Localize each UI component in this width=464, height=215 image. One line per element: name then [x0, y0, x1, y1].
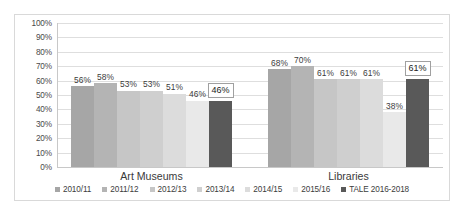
legend-item[interactable]: 2015/16: [293, 185, 330, 194]
y-axis-tick: 10%: [36, 148, 52, 157]
bar-value-label: 61%: [363, 69, 380, 77]
bar-slot: 68%: [268, 23, 291, 167]
y-axis-tick: 0%: [40, 163, 52, 172]
bar[interactable]: [186, 101, 209, 167]
legend-swatch-icon: [102, 187, 107, 192]
category-label: Libraries: [328, 170, 369, 182]
bar[interactable]: [94, 83, 117, 167]
category-label: Art Museums: [120, 170, 182, 182]
bars-layer: 56%58%53%53%51%46%46%68%70%61%61%61%38%6…: [57, 23, 443, 167]
legend-label: 2014/15: [253, 185, 282, 194]
bar[interactable]: [360, 79, 383, 167]
bar-slot: 51%: [163, 23, 186, 167]
bar-value-label: 68%: [271, 59, 288, 67]
bar-slot: 61%: [337, 23, 360, 167]
bar-slot: 70%: [291, 23, 314, 167]
bar[interactable]: [117, 91, 140, 167]
bar-slot: 53%: [117, 23, 140, 167]
bar-value-label: 53%: [143, 80, 160, 88]
bar-slot: 46%: [186, 23, 209, 167]
bar-group: 68%70%61%61%61%38%61%: [268, 23, 429, 167]
bar-slot: 61%: [314, 23, 337, 167]
y-axis-tick: 40%: [36, 105, 52, 114]
legend-swatch-icon: [245, 187, 250, 192]
bar[interactable]: [71, 86, 94, 167]
bar[interactable]: [140, 91, 163, 167]
bar[interactable]: [291, 66, 314, 167]
bar[interactable]: [268, 69, 291, 167]
bar-value-label: 53%: [120, 80, 137, 88]
y-axis-tick: 60%: [36, 76, 52, 85]
chart-legend: 2010/112011/122012/132013/142014/152015/…: [15, 185, 449, 194]
bar-value-label: 38%: [386, 102, 403, 110]
bar[interactable]: [337, 79, 360, 167]
bar-value-label: 56%: [74, 76, 91, 84]
bar-value-label: 61%: [340, 69, 357, 77]
bar-value-label: 61%: [317, 69, 334, 77]
y-axis-tick: 90%: [36, 33, 52, 42]
y-axis-tick: 70%: [36, 62, 52, 71]
legend-swatch-icon: [55, 187, 60, 192]
bar-slot: 38%: [383, 23, 406, 167]
legend-swatch-icon: [150, 187, 155, 192]
y-axis-tick: 50%: [36, 91, 52, 100]
legend-label: 2012/13: [158, 185, 187, 194]
legend-label: 2015/16: [301, 185, 330, 194]
bar-value-label: 70%: [294, 56, 311, 64]
legend-label: 2013/14: [205, 185, 234, 194]
bar-slot: 53%: [140, 23, 163, 167]
bar-slot: 61%: [360, 23, 383, 167]
legend-item[interactable]: 2012/13: [150, 185, 187, 194]
legend-item[interactable]: TALE 2016-2018: [341, 185, 409, 194]
bar-slot: 61%: [406, 23, 429, 167]
plot-area: 56%58%53%53%51%46%46%68%70%61%61%61%38%6…: [57, 23, 443, 167]
bar-value-label-highlighted: 46%: [207, 83, 233, 98]
legend-item[interactable]: 2010/11: [55, 185, 91, 194]
y-axis-tick: 80%: [36, 47, 52, 56]
bar-group: 56%58%53%53%51%46%46%: [71, 23, 232, 167]
bar[interactable]: [209, 101, 232, 167]
y-axis-tick: 100%: [31, 19, 52, 28]
chart-container: 100%90%80%70%60%50%40%30%20%10%0% 56%58%…: [14, 14, 450, 201]
bar-slot: 58%: [94, 23, 117, 167]
y-axis: 100%90%80%70%60%50%40%30%20%10%0%: [15, 23, 55, 167]
bar-value-label: 51%: [166, 83, 183, 91]
legend-label: 2010/11: [63, 185, 91, 194]
legend-item[interactable]: 2013/14: [197, 185, 234, 194]
bar-value-label-highlighted: 61%: [404, 61, 430, 76]
legend-swatch-icon: [197, 187, 202, 192]
gridline: [57, 167, 443, 168]
y-axis-line: [57, 23, 58, 168]
y-axis-tick: 20%: [36, 134, 52, 143]
legend-item[interactable]: 2014/15: [245, 185, 282, 194]
legend-label: TALE 2016-2018: [349, 185, 409, 194]
y-axis-tick: 30%: [36, 119, 52, 128]
bar[interactable]: [314, 79, 337, 167]
legend-swatch-icon: [293, 187, 298, 192]
bar[interactable]: [383, 112, 406, 167]
bar-slot: 56%: [71, 23, 94, 167]
legend-item[interactable]: 2011/12: [102, 185, 138, 194]
legend-label: 2011/12: [110, 185, 138, 194]
bar[interactable]: [163, 94, 186, 167]
bar[interactable]: [406, 79, 429, 167]
bar-value-label: 58%: [97, 73, 114, 81]
bar-value-label: 46%: [189, 90, 206, 98]
bar-slot: 46%: [209, 23, 232, 167]
legend-swatch-icon: [341, 187, 346, 192]
